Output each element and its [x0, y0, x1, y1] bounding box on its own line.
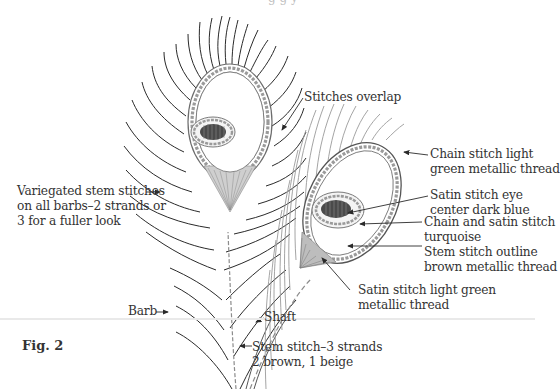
label-shaft: Shaft — [264, 310, 296, 325]
label-chain-satin-line2: turquoise — [424, 230, 555, 245]
label-satin-eye-line1: Satin stitch eye — [430, 188, 529, 203]
label-variegated-line3: 3 for a fuller look — [17, 214, 166, 229]
figure-label: Fig. 2 — [22, 338, 63, 353]
label-variegated: Variegated stem stitches on all barbs–2 … — [17, 184, 166, 229]
label-satin-light-green-line2: metallic thread — [358, 298, 496, 313]
label-satin-light-green-line1: Satin stitch light green — [358, 283, 496, 298]
label-variegated-line1: Variegated stem stitches — [17, 184, 166, 199]
left-shaft — [228, 232, 236, 389]
label-satin-light-green: Satin stitch light green metallic thread — [358, 283, 496, 313]
label-stem-outline-line1: Stem stitch outline — [424, 245, 557, 260]
label-chain-satin: Chain and satin stitch turquoise — [424, 215, 555, 245]
label-chain-stitch-line2: green metallic thread — [430, 162, 560, 177]
label-stem-shaft: Stem stitch–3 strands 2 brown, 1 beige — [252, 340, 382, 370]
label-barb: Barb — [128, 304, 157, 319]
label-variegated-line2: on all barbs–2 strands or — [17, 199, 166, 214]
label-stem-outline: Stem stitch outline brown metallic threa… — [424, 245, 557, 275]
label-stem-outline-line2: brown metallic thread — [424, 260, 557, 275]
label-chain-stitch: Chain stitch light green metallic thread — [430, 147, 560, 177]
label-stem-shaft-line1: Stem stitch–3 strands — [252, 340, 382, 355]
label-stem-shaft-line2: 2 brown, 1 beige — [252, 355, 382, 370]
label-stitches-overlap: Stitches overlap — [304, 90, 401, 105]
label-chain-satin-line1: Chain and satin stitch — [424, 215, 555, 230]
label-satin-eye: Satin stitch eye center dark blue — [430, 188, 529, 218]
label-chain-stitch-line1: Chain stitch light — [430, 147, 560, 162]
